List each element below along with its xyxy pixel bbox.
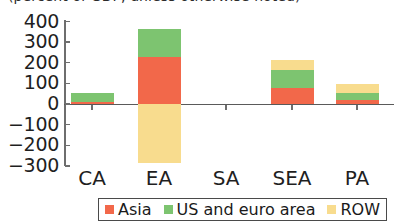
bar-pa: [336, 0, 379, 180]
y-axis-tick: [65, 62, 70, 63]
legend-item-us-and-euro-area[interactable]: US and euro area: [164, 201, 316, 218]
y-axis-tick: [65, 124, 70, 125]
legend-item-row[interactable]: ROW: [327, 201, 380, 218]
y-axis-tick: [65, 145, 70, 146]
y-axis-tick: [65, 103, 70, 104]
y-axis-tick-label: −300: [0, 156, 59, 175]
bar-sa: [205, 0, 248, 180]
bar-segment-us-and-euro-area: [138, 29, 181, 57]
legend-label: US and euro area: [177, 201, 316, 218]
bar-segment-row: [138, 104, 181, 163]
x-axis-label-sa: SA: [191, 167, 261, 189]
bar-segment-us-and-euro-area: [71, 93, 114, 102]
bar-segment-asia: [138, 57, 181, 104]
chart-figure: (percent of GDP, unless otherwise noted)…: [0, 0, 394, 221]
y-axis-tick-label: −100: [0, 115, 59, 134]
legend-swatch-icon: [327, 205, 336, 214]
legend-label: ROW: [340, 201, 380, 218]
legend-swatch-icon: [164, 205, 173, 214]
y-axis-tick: [65, 83, 70, 84]
bar-segment-us-and-euro-area: [336, 93, 379, 100]
y-axis-tick-label: 200: [0, 53, 59, 72]
bar-ea: [138, 0, 181, 180]
x-axis-label-ea: EA: [124, 167, 194, 189]
bar-ca: [71, 0, 114, 180]
legend-swatch-icon: [105, 205, 114, 214]
bar-sea: [271, 0, 314, 180]
y-axis-tick-label: 100: [0, 73, 59, 92]
y-axis-tick-label: 0: [0, 94, 59, 113]
bar-segment-asia: [71, 102, 114, 104]
bar-segment-row: [336, 84, 379, 92]
x-axis-label-ca: CA: [57, 167, 127, 189]
x-axis-label-sea: SEA: [257, 167, 327, 189]
y-axis-tick: [65, 21, 70, 22]
x-axis-label-pa: PA: [322, 167, 392, 189]
legend-item-asia[interactable]: Asia: [105, 201, 152, 218]
legend-label: Asia: [118, 201, 152, 218]
bar-segment-us-and-euro-area: [271, 70, 314, 88]
bar-segment-row: [271, 60, 314, 70]
chart-legend: AsiaUS and euro areaROW: [98, 198, 387, 221]
y-axis-tick-label: 400: [0, 12, 59, 31]
y-axis-tick: [65, 41, 70, 42]
y-axis-tick-label: 300: [0, 32, 59, 51]
bar-segment-asia: [271, 88, 314, 105]
y-axis-tick-label: −200: [0, 135, 59, 154]
bar-segment-asia: [336, 100, 379, 104]
